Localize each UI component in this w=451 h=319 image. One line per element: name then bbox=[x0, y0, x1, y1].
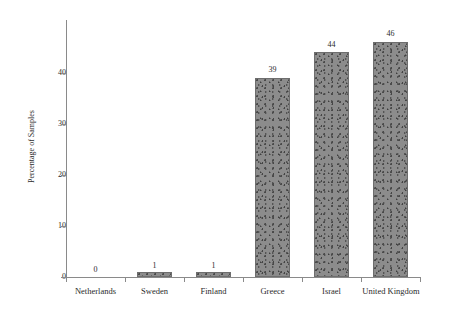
bar-finland bbox=[196, 272, 231, 277]
x-axis-label-netherlands: Netherlands bbox=[66, 287, 125, 296]
bar-value-label: 46 bbox=[368, 30, 413, 38]
x-tick-mark bbox=[125, 277, 126, 282]
bar-greece bbox=[255, 78, 290, 277]
bar-value-label: 44 bbox=[309, 41, 354, 49]
y-axis-title: Percentage of Samples bbox=[27, 72, 36, 222]
bar-israel bbox=[314, 52, 349, 277]
x-axis-label-united-kingdom: United Kingdom bbox=[355, 287, 427, 296]
x-tick-mark bbox=[420, 277, 421, 282]
y-tick-mark bbox=[61, 124, 66, 125]
bar-united-kingdom bbox=[373, 42, 408, 277]
x-tick-mark bbox=[302, 277, 303, 282]
x-axis-label-greece: Greece bbox=[243, 287, 302, 296]
x-tick-mark bbox=[361, 277, 362, 282]
y-tick-mark bbox=[61, 175, 66, 176]
bar-value-label: 39 bbox=[250, 66, 295, 74]
y-tick-mark bbox=[61, 73, 66, 74]
x-axis-label-sweden: Sweden bbox=[125, 287, 184, 296]
bar-value-label: 1 bbox=[191, 262, 236, 270]
y-tick-mark bbox=[61, 226, 66, 227]
bar-value-label: 1 bbox=[132, 262, 177, 270]
bar-value-label: 0 bbox=[73, 266, 118, 274]
y-axis-line bbox=[66, 20, 67, 278]
x-axis-label-finland: Finland bbox=[184, 287, 243, 296]
bar-chart: Percentage of Samples 0 10 20 30 40 0 Ne… bbox=[0, 0, 451, 319]
x-tick-mark bbox=[184, 277, 185, 282]
bar-sweden bbox=[137, 272, 172, 277]
x-tick-mark bbox=[66, 277, 67, 282]
x-axis-label-israel: Israel bbox=[302, 287, 361, 296]
x-tick-mark bbox=[243, 277, 244, 282]
